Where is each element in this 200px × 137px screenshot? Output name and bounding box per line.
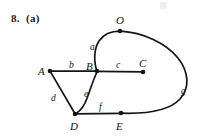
vertex-dot-C — [141, 70, 146, 75]
graph-diagram-svg: O A B C D E a b c d e f g — [0, 0, 200, 137]
vertex-label-D: D — [69, 120, 78, 132]
edge-label-a: a — [90, 42, 95, 52]
edge-label-d: d — [51, 93, 56, 103]
figure-page: 8. (a) O A B C D E a b c d — [0, 0, 200, 137]
edge-label-c: c — [116, 60, 121, 70]
vertex-label-C: C — [139, 57, 147, 69]
vertex-dot-E — [119, 111, 124, 116]
edge-label-b: b — [69, 60, 74, 70]
edge-label-f: f — [99, 102, 103, 112]
vertex-dot-B — [95, 69, 100, 74]
vertex-label-E: E — [115, 120, 123, 132]
vertex-dot-D — [73, 112, 78, 117]
vertex-label-B: B — [86, 60, 93, 72]
edge-label-g: g — [181, 86, 186, 96]
vertex-label-O: O — [116, 14, 124, 26]
edge-label-e: e — [84, 89, 88, 99]
vertex-dot-O — [118, 29, 123, 34]
vertex-dot-A — [48, 69, 53, 74]
vertex-label-A: A — [37, 65, 45, 77]
